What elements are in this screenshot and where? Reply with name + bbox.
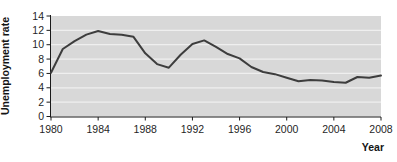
x-tick-label: 2000 — [275, 123, 299, 135]
y-tick-label: 4 — [38, 81, 44, 93]
y-tick-label: 2 — [38, 96, 44, 108]
x-tick-labels: 19801984198819921996200020042008 — [39, 123, 393, 135]
y-tick-label: 0 — [38, 110, 44, 122]
x-tick-label: 1984 — [86, 123, 110, 135]
y-tick-label: 8 — [38, 53, 44, 65]
y-tick-label: 10 — [32, 38, 44, 50]
unemployment-rate-line-chart: 19801984198819921996200020042008 0246810… — [0, 0, 397, 162]
x-tick-label: 1980 — [39, 123, 63, 135]
y-tick-label: 14 — [32, 10, 44, 22]
x-tick-label: 1988 — [134, 123, 158, 135]
y-tick-label: 12 — [32, 24, 44, 36]
x-tick-label: 2004 — [322, 123, 346, 135]
y-axis-title: Unemployment rate — [0, 17, 11, 115]
y-tick-label: 6 — [38, 67, 44, 79]
x-tick-label: 1992 — [181, 123, 205, 135]
y-tick-labels: 02468101214 — [32, 10, 44, 123]
x-axis-title: Year — [362, 141, 384, 153]
x-tick-label: 1996 — [228, 123, 252, 135]
unemployment-rate-figure: 19801984198819921996200020042008 0246810… — [0, 0, 397, 162]
x-tick-label: 2008 — [369, 123, 393, 135]
